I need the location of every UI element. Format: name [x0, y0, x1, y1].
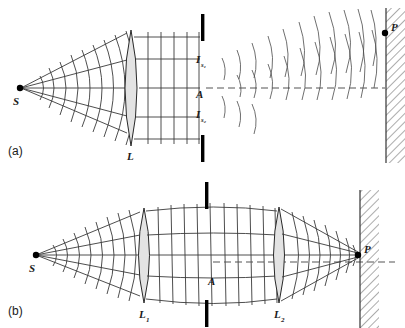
panel-b-stop-lower — [205, 300, 208, 327]
panel-b-lens1-subscript: 1 — [146, 316, 150, 324]
panel-a-lens — [125, 30, 137, 146]
panel-a-focus-point-dot — [382, 30, 388, 36]
panel-b-focus-point-dot — [355, 252, 361, 258]
panel-a-plane-wave-grid — [134, 32, 200, 144]
panel-b-lens2-label: L 2 — [273, 308, 285, 324]
panel-b-label: (b) — [8, 304, 23, 318]
panel-a-source-dot — [17, 85, 23, 91]
panel-a-stop-upper — [201, 14, 204, 41]
panel-b-axis-point-label: A — [207, 275, 215, 287]
panel-b-source-dot — [33, 252, 39, 258]
panel-a: L — [8, 8, 405, 163]
panel-a-converging-wavefronts — [222, 9, 377, 134]
panel-a-image-lower-label: I s₂ — [195, 108, 207, 124]
panel-b-source-label: S — [29, 262, 35, 274]
panel-b-wavefronts-left — [53, 210, 136, 301]
panel-b-lens1-letter: L — [138, 308, 146, 320]
panel-b-lens1-label: L 1 — [138, 308, 150, 324]
panel-b-converging-rays — [281, 209, 358, 301]
panel-b: L 1 — [8, 182, 395, 328]
figure-root: L — [0, 0, 405, 328]
panel-a-focus-point-label: P — [391, 21, 398, 33]
optics-figure-svg: L — [0, 0, 405, 328]
panel-a-lens-label: L — [126, 150, 134, 162]
panel-b-collimated-rays — [146, 203, 277, 306]
panel-b-lens1 — [139, 208, 150, 303]
panel-a-source-label: S — [13, 95, 19, 107]
panel-b-lens2-subscript: 2 — [280, 316, 285, 324]
panel-b-focus-point-label: P — [364, 243, 371, 255]
panel-b-rays-source-to-lens1 — [36, 212, 143, 296]
panel-a-image-upper-subscript: s₁ — [200, 61, 206, 69]
panel-b-wavefronts-right — [292, 212, 356, 299]
panel-a-stop-lower — [201, 135, 204, 162]
panel-b-screen — [360, 190, 379, 328]
panel-a-image-lower-subscript: s₂ — [200, 116, 207, 124]
panel-a-label: (a) — [8, 144, 23, 158]
panel-a-image-upper-label: I s₁ — [195, 53, 206, 69]
panel-b-stop-upper — [205, 182, 208, 209]
panel-a-axis-point-label: A — [195, 88, 203, 100]
panel-b-lens2-letter: L — [273, 308, 281, 320]
